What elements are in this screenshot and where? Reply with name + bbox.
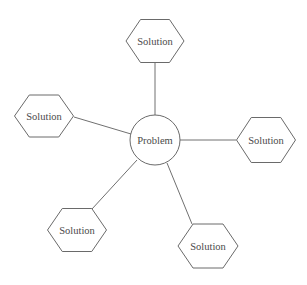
solution-label: Solution xyxy=(190,241,226,252)
solution-node-top: Solution xyxy=(126,20,184,63)
problem-node: Problem xyxy=(130,115,180,165)
connector-line-left xyxy=(74,117,131,134)
solution-node-bottom-right: Solution xyxy=(178,224,238,268)
connector-line-bottom-left xyxy=(92,160,137,209)
solution-label: Solution xyxy=(59,225,95,236)
solution-node-left: Solution xyxy=(15,95,74,137)
problem-label: Problem xyxy=(137,135,173,146)
hub-spoke-diagram: SolutionSolutionSolutionSolutionSolution… xyxy=(0,0,307,285)
solution-label: Solution xyxy=(26,111,62,122)
solution-node-bottom-left: Solution xyxy=(48,209,107,252)
solution-label: Solution xyxy=(137,36,173,47)
solution-label: Solution xyxy=(248,135,284,146)
connector-line-bottom-right xyxy=(167,163,192,224)
solution-node-right: Solution xyxy=(237,118,296,163)
